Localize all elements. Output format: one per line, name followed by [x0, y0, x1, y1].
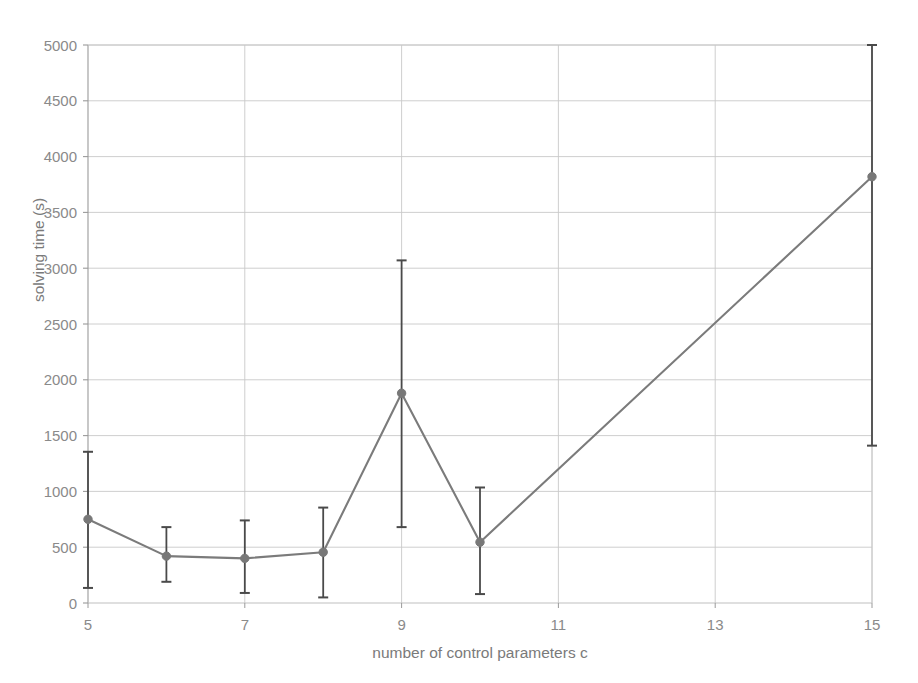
y-tick-label: 500 [52, 539, 77, 556]
data-point-marker [397, 389, 405, 397]
data-point-marker [241, 554, 249, 562]
x-tick-label: 11 [551, 616, 567, 633]
y-axis-tick-labels: 0500100015002000250030003500400045005000 [44, 37, 77, 612]
y-tick-label: 1000 [44, 483, 77, 500]
y-tick-label: 5000 [44, 37, 77, 54]
y-tick-label: 1500 [44, 427, 77, 444]
data-point-marker [84, 515, 92, 523]
y-tick-label: 2000 [44, 371, 77, 388]
y-tick-label: 0 [69, 595, 77, 612]
y-tick-label: 3500 [44, 204, 77, 221]
data-point-marker [162, 552, 170, 560]
x-tick-label: 9 [397, 616, 405, 633]
data-point-marker [319, 548, 327, 556]
y-tick-label: 4000 [44, 148, 77, 165]
chart-figure: 0500100015002000250030003500400045005000… [0, 0, 918, 683]
y-tick-label: 2500 [44, 316, 77, 333]
y-tick-label: 3000 [44, 260, 77, 277]
x-tick-label: 13 [707, 616, 724, 633]
line-chart-with-error-bars: 0500100015002000250030003500400045005000… [0, 0, 918, 683]
x-tick-label: 7 [241, 616, 249, 633]
x-axis-title: number of control parameters c [372, 644, 588, 661]
x-axis-ticks [88, 603, 872, 608]
y-axis-title: solving time (s) [30, 198, 47, 302]
x-axis-tick-labels: 579111315 [84, 616, 881, 633]
data-point-marker [476, 538, 484, 546]
x-tick-label: 5 [84, 616, 92, 633]
y-tick-label: 4500 [44, 92, 77, 109]
data-point-marker [868, 172, 876, 180]
x-tick-label: 15 [864, 616, 881, 633]
